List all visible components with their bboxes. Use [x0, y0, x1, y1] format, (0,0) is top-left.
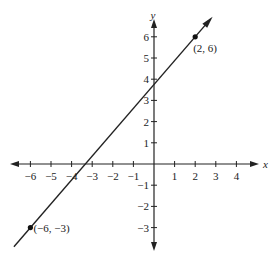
x-tick-label: −6	[25, 170, 37, 182]
y-tick-label: 4	[144, 73, 150, 85]
x-tick-label: 2	[192, 170, 198, 182]
x-tick-label: −2	[107, 170, 119, 182]
y-tick-label: 5	[144, 52, 150, 64]
line-graph: xy−6−5−4−3−2−11234−3−2−1123456(2, 6)(−6,…	[0, 0, 277, 263]
y-tick-label: 2	[144, 116, 150, 128]
y-axis-label: y	[150, 9, 156, 21]
x-axis-right-arrow-icon	[250, 161, 259, 167]
y-tick-label: −2	[137, 200, 149, 212]
y-tick-label: −1	[137, 179, 149, 191]
data-point	[193, 34, 198, 39]
y-tick-label: 6	[144, 31, 150, 43]
y-axis-down-arrow-icon	[151, 242, 157, 251]
x-tick-label: −5	[45, 170, 57, 182]
point-label: (−6, −3)	[33, 222, 70, 235]
x-axis-left-arrow-icon	[10, 161, 19, 167]
x-tick-label: −3	[86, 170, 98, 182]
point-label: (2, 6)	[193, 42, 217, 55]
y-tick-label: −3	[137, 222, 149, 234]
x-axis-label: x	[262, 158, 268, 170]
data-line	[14, 19, 211, 247]
x-tick-label: 1	[172, 170, 178, 182]
x-tick-label: 4	[234, 170, 240, 182]
y-tick-label: 1	[144, 137, 150, 149]
data-point	[28, 225, 33, 230]
x-tick-label: 3	[213, 170, 219, 182]
